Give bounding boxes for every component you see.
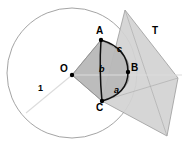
- label-side-b: b: [99, 65, 105, 74]
- label-point-B: B: [131, 63, 138, 73]
- label-point-A: A: [96, 26, 103, 36]
- label-point-O: O: [60, 64, 68, 74]
- vertex-point-A: [99, 38, 103, 42]
- label-side-c: c: [117, 45, 122, 54]
- geometry-figure: O A B C a b c T 1: [0, 0, 186, 146]
- vertex-point-B: [126, 70, 130, 74]
- label-point-C: C: [96, 103, 103, 113]
- label-side-a: a: [114, 86, 119, 95]
- radius-line-1: [26, 75, 72, 113]
- label-radius-one: 1: [38, 84, 43, 93]
- figure-canvas: [0, 0, 186, 146]
- vertex-point-O: [70, 73, 74, 77]
- label-plane-T: T: [152, 26, 158, 36]
